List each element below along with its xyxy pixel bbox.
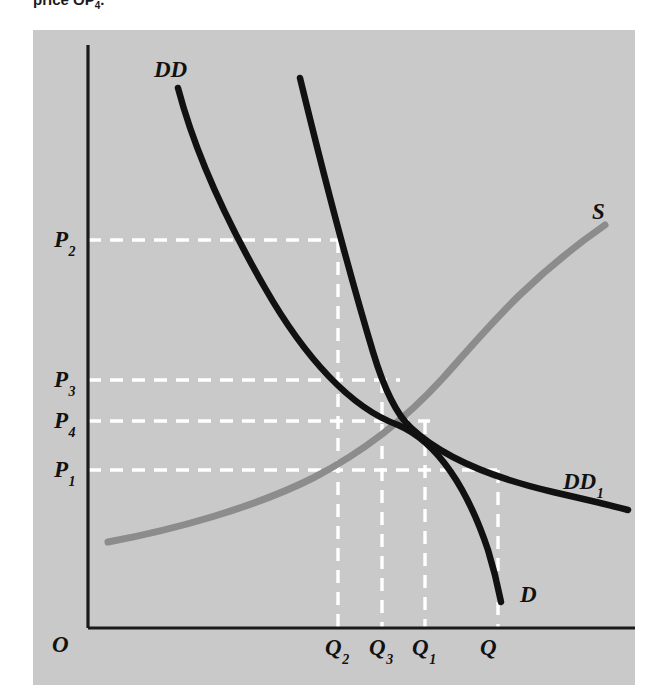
supply-demand-figure: O P2 P3 P4 P1 Q2 Q3 Q1 Q DD S DD1 D: [33, 30, 635, 685]
curve-label-d: D: [520, 583, 537, 611]
guide-lines-horizontal: [88, 240, 500, 470]
axis-label-q3: Q3: [369, 636, 393, 664]
supply-curve-s: [108, 225, 605, 542]
dd1-base: DD: [563, 469, 596, 494]
curve-label-dd: DD: [154, 58, 187, 86]
q1-base: Q: [412, 635, 429, 660]
axis-label-p3: P3: [54, 368, 75, 396]
p2-base: P: [54, 227, 68, 252]
demand-curve-dd1: [300, 78, 628, 510]
axis-label-q2: Q2: [325, 636, 349, 664]
q3-base: Q: [369, 635, 386, 660]
axis-label-q: Q: [480, 636, 497, 664]
s-base: S: [592, 199, 605, 224]
curve-label-dd1: DD1: [563, 470, 603, 498]
axis-label-p1: P1: [54, 458, 75, 486]
axis-label-origin: O: [52, 633, 69, 656]
axis-label-p4: P4: [54, 409, 75, 437]
caption-text-after: .: [100, 0, 104, 8]
q1-sub: 1: [429, 652, 436, 667]
p4-sub: 4: [69, 425, 76, 440]
q2-base: Q: [325, 635, 342, 660]
origin-letter: O: [52, 632, 69, 657]
dd1-sub: 1: [597, 486, 604, 501]
p1-sub: 1: [69, 474, 76, 489]
curve-label-s: S: [592, 200, 605, 228]
q2-sub: 2: [342, 652, 349, 667]
caption-text-before: price OP: [33, 0, 95, 8]
supply-demand-chart: [33, 30, 635, 685]
p2-sub: 2: [69, 244, 76, 259]
dd-base: DD: [154, 57, 187, 82]
caption-strip: price OP4.: [0, 0, 647, 22]
q3-sub: 3: [386, 652, 393, 667]
p1-base: P: [54, 457, 68, 482]
p3-sub: 3: [69, 384, 76, 399]
d-base: D: [520, 582, 537, 607]
p4-base: P: [54, 408, 68, 433]
figure-caption: price OP4.: [33, 0, 104, 11]
chart-axes: [88, 45, 635, 628]
demand-curve-dd: [178, 88, 501, 602]
axis-label-p2: P2: [54, 228, 75, 256]
axis-label-q1: Q1: [412, 636, 436, 664]
p3-base: P: [54, 367, 68, 392]
q-base: Q: [480, 635, 497, 660]
